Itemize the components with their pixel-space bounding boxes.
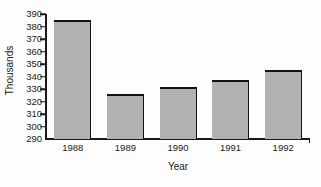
y-axis-tick-mark	[40, 76, 46, 78]
x-axis-tick-label: 1990	[167, 143, 188, 153]
bar	[107, 94, 144, 139]
y-axis-tick-mark	[40, 13, 46, 15]
x-axis-tick-labels: 19881989199019911992	[47, 143, 310, 157]
y-axis-tick-labels: 290300310320330340350360370380390	[18, 14, 42, 139]
y-axis-tick-mark	[40, 88, 46, 90]
bar	[54, 20, 91, 139]
bar	[212, 80, 249, 139]
y-axis-title: Thousands	[0, 0, 20, 140]
x-axis-title: Year	[47, 161, 310, 172]
plot-area	[47, 14, 310, 139]
x-axis-tick-label: 1992	[273, 143, 294, 153]
y-axis-tick-mark	[40, 63, 46, 65]
bar-chart-figure: Thousands 290300310320330340350360370380…	[0, 0, 321, 187]
y-axis-tick-mark	[40, 101, 46, 103]
x-axis-title-text: Year	[168, 161, 188, 172]
y-axis-tick-mark	[40, 38, 46, 40]
bar	[265, 70, 302, 139]
y-axis-title-text: Thousands	[5, 45, 16, 94]
y-axis-tick-mark	[40, 51, 46, 53]
x-axis-tick-label: 1989	[115, 143, 136, 153]
y-axis-tick-mark	[40, 26, 46, 28]
y-axis-tick-label: 290	[26, 134, 42, 144]
bar	[160, 87, 197, 140]
y-axis-tick-mark	[40, 113, 46, 115]
x-axis-tick-label: 1988	[62, 143, 83, 153]
y-axis-tick-mark	[40, 126, 46, 128]
x-axis-tick-label: 1991	[220, 143, 241, 153]
